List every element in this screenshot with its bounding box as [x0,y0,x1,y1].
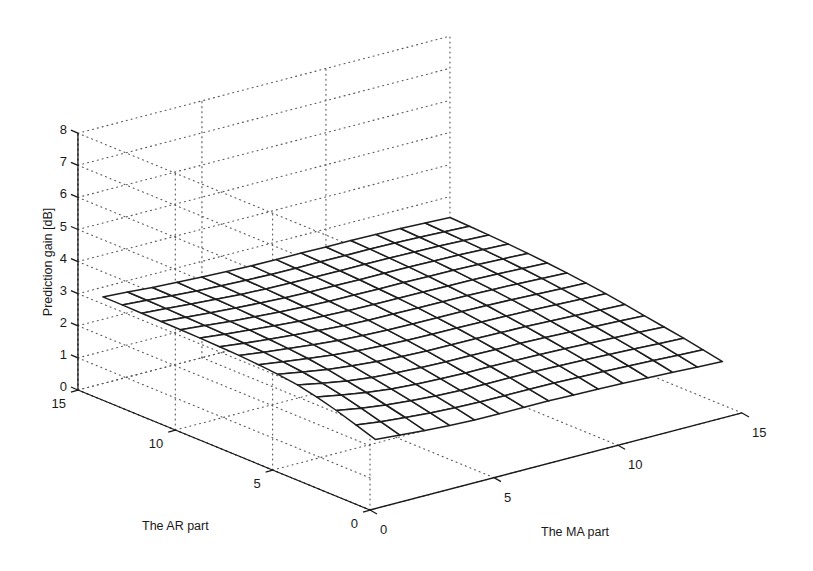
y-tick-mark [266,470,273,472]
y-tick-mark [71,390,78,392]
x-tick-mark [742,413,749,417]
x-axis-label: The MA part [541,525,610,539]
z-tick-label: 0 [60,379,67,394]
z-tick-mark [71,291,78,294]
z-tick-label: 2 [60,315,67,330]
y-axis-line [78,390,370,510]
z-tick-label: 5 [60,219,67,234]
z-tick-mark [71,323,78,326]
z-tick-mark [71,227,78,230]
x-tick-mark [370,510,377,514]
x-tick-mark [618,445,625,449]
z-tick-mark [71,194,78,197]
y-tick-mark [168,430,175,432]
x-tick-label: 15 [752,425,766,440]
x-tick-label: 0 [380,522,387,537]
z-tick-label: 4 [60,251,67,266]
z-tick-label: 1 [60,347,67,362]
y-tick-mark [363,510,370,512]
y-axis-label: The AR part [142,519,209,533]
grid-line-z-back [78,132,450,229]
x-tick-mark [494,478,501,482]
z-tick-label: 6 [60,186,67,201]
surface-mesh [103,218,723,440]
grid-line-z-back [78,36,450,133]
z-tick-mark [71,355,78,358]
surface-plot: 012345678051015051015 Prediction gain [d… [0,0,813,571]
z-tick-mark [71,259,78,262]
z-tick-label: 8 [60,122,67,137]
z-tick-label: 3 [60,283,67,298]
y-tick-label: 5 [253,476,260,491]
x-tick-label: 5 [504,490,511,505]
y-tick-label: 0 [351,516,358,531]
z-tick-label: 7 [60,154,67,169]
y-tick-label: 10 [149,436,163,451]
x-tick-label: 10 [628,457,642,472]
z-tick-mark [71,387,78,390]
z-axis-label: Prediction gain [dB] [41,208,55,316]
z-tick-mark [71,130,78,133]
grid-line-z-back [78,100,450,197]
y-tick-label: 15 [51,396,65,411]
z-tick-mark [71,162,78,165]
grid-line-z-back [78,68,450,165]
